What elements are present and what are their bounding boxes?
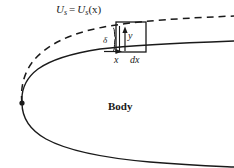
stagnation-point-dot <box>19 100 24 105</box>
normal-coordinate-label: y <box>128 31 132 41</box>
figure-canvas <box>0 0 234 168</box>
streamwise-coordinate-label: x <box>114 55 118 65</box>
element-width-label: dx <box>130 55 139 65</box>
body-surface-upper-curve <box>22 41 234 103</box>
body-label: Body <box>108 101 132 112</box>
boundary-layer-thickness-label: δ <box>103 36 107 45</box>
us-symbol: U <box>56 3 64 15</box>
us-equals: = <box>67 3 77 15</box>
freestream-velocity-label: Us=Us(x) <box>56 4 101 17</box>
us-argument: (x) <box>88 3 101 15</box>
boundary-layer-figure: Us=Us(x) δ y x dx Body <box>0 0 234 168</box>
body-surface-lower-curve <box>22 103 234 167</box>
y-arrow-head <box>122 27 127 34</box>
